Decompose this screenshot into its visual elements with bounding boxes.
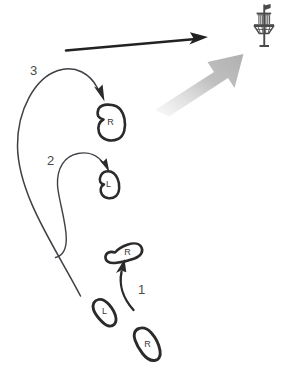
footprint-label: L bbox=[102, 306, 107, 316]
diagram-canvas: R L R L R 3 2 1 bbox=[0, 0, 289, 372]
footprint-start-right: R bbox=[134, 328, 160, 361]
step-label-3: 3 bbox=[30, 63, 37, 78]
step-label-1: 1 bbox=[138, 282, 145, 297]
step-2-path bbox=[56, 153, 110, 258]
footprint-label: R bbox=[107, 117, 114, 127]
throw-direction-arrow bbox=[66, 32, 208, 50]
footprint-step2-left: L bbox=[100, 171, 120, 198]
step-1-path bbox=[116, 259, 134, 310]
disc-flight-arrow bbox=[155, 54, 244, 117]
step-3-path bbox=[17, 69, 104, 296]
footprint-label: R bbox=[144, 339, 151, 349]
disc-golf-basket-icon bbox=[254, 4, 274, 47]
footprint-label: L bbox=[106, 179, 111, 189]
footwork-diagram-svg: R L R L R 3 2 1 bbox=[0, 0, 289, 372]
footprint-label: R bbox=[124, 247, 131, 257]
footprint-start-left: L bbox=[93, 299, 116, 326]
footprint-step3-right: R bbox=[98, 105, 125, 141]
step-label-2: 2 bbox=[47, 153, 54, 168]
